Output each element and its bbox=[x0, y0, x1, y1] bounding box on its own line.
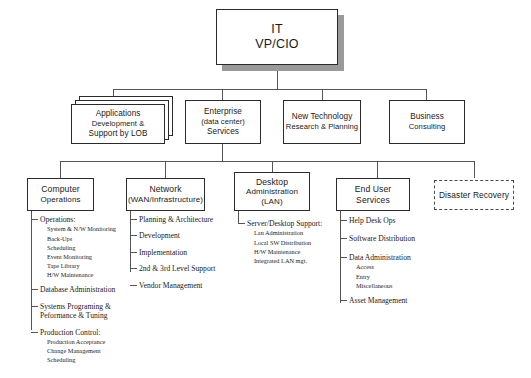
list-item[interactable]: Vendor Management bbox=[139, 281, 231, 290]
list-item[interactable]: Systems Programing & Peformance & Tuning bbox=[40, 302, 126, 321]
box-end-user-services[interactable]: End User Services bbox=[336, 178, 410, 211]
tick-mark-icon bbox=[340, 257, 347, 258]
tick-mark-icon bbox=[130, 252, 137, 253]
leaf-item: Access bbox=[356, 262, 441, 271]
list-item[interactable]: Production Control: Production Acceptanc… bbox=[40, 328, 126, 365]
list-item[interactable]: Planning & Architecture bbox=[139, 215, 231, 224]
tick-mark-icon bbox=[130, 219, 137, 220]
box-enterprise-line3: Services bbox=[207, 127, 239, 137]
connector-tier2-drop-1 bbox=[113, 89, 114, 96]
list-item-label: Systems Programing & Peformance & Tuning bbox=[40, 302, 120, 321]
box-it-vp-cio-line2: VP/CIO bbox=[255, 37, 299, 52]
list-item-label: Data Administration bbox=[349, 253, 441, 262]
box-applications-line2: Development & bbox=[92, 119, 145, 128]
tick-mark-icon bbox=[31, 289, 38, 290]
list-item-label: Database Administration bbox=[40, 285, 126, 294]
list-item[interactable]: Server/Desktop Support: Lan Administrati… bbox=[247, 219, 335, 265]
spine-computer-operations bbox=[31, 211, 32, 330]
list-item[interactable]: Software Distribution bbox=[349, 234, 441, 243]
list-item[interactable]: Data Administration Access Entry Miscell… bbox=[349, 253, 441, 290]
tick-mark-icon bbox=[31, 306, 38, 307]
connector-tier2-drop-2 bbox=[222, 89, 223, 100]
box-disaster-recovery[interactable]: Disaster Recovery bbox=[434, 180, 514, 210]
leaf-item: Production Acceptance bbox=[47, 337, 126, 346]
box-network-line2: (WAN/Infrastructure) bbox=[128, 195, 203, 205]
box-business-consulting-line1: Business bbox=[410, 112, 444, 122]
tick-mark-icon bbox=[130, 235, 137, 236]
leaf-item: Lan Administration bbox=[254, 228, 335, 237]
tick-mark-icon bbox=[340, 220, 347, 221]
box-computer-operations-line1: Computer bbox=[41, 184, 80, 194]
list-item[interactable]: Operations: System & N/W Monitoring Back… bbox=[40, 215, 126, 279]
list-item[interactable]: Help Desk Ops bbox=[349, 216, 441, 225]
leaf-item: System & N/W Monitoring bbox=[47, 224, 126, 233]
box-computer-operations[interactable]: Computer Operations bbox=[27, 178, 94, 211]
sublist-computer-operations: Operations: System & N/W Monitoring Back… bbox=[40, 215, 126, 369]
box-applications-line3: Support by LOB bbox=[89, 129, 148, 139]
list-item[interactable]: 2nd & 3rd Level Support bbox=[139, 264, 231, 273]
list-item-label: Production Control: bbox=[40, 328, 126, 337]
list-item-label: Operations: bbox=[40, 215, 126, 224]
connector-tier3-drop-1 bbox=[60, 161, 61, 178]
connector-enterprise-stem bbox=[222, 144, 223, 161]
box-desktop-administration-line2: Administration bbox=[246, 187, 298, 197]
spine-network bbox=[130, 211, 131, 272]
tick-mark-icon bbox=[130, 268, 137, 269]
box-desktop-administration-line1: Desktop bbox=[256, 177, 288, 187]
list-item-label: Server/Desktop Support: bbox=[247, 219, 335, 228]
box-applications-line1: Applications bbox=[96, 109, 141, 119]
connector-tier3-drop-5 bbox=[474, 161, 475, 178]
list-item[interactable]: Implementation bbox=[139, 248, 231, 257]
list-item[interactable]: Development bbox=[139, 231, 231, 240]
list-item[interactable]: Database Administration bbox=[40, 285, 126, 294]
leaf-item: Scheduling bbox=[47, 355, 126, 364]
box-network-line1: Network bbox=[149, 184, 181, 194]
list-item[interactable]: Asset Management bbox=[349, 296, 441, 305]
list-item-label: Implementation bbox=[139, 248, 231, 257]
box-enterprise-line2: (data center) bbox=[201, 117, 245, 126]
leaf-group: Access Entry Miscellaneous bbox=[349, 262, 441, 289]
list-item-label: Help Desk Ops bbox=[349, 216, 441, 225]
list-item-label: Software Distribution bbox=[349, 234, 441, 243]
box-network[interactable]: Network (WAN/Infrastructure) bbox=[126, 178, 205, 211]
leaf-item: Back-Ups bbox=[47, 234, 126, 243]
box-desktop-administration-line3: (LAN) bbox=[261, 197, 282, 207]
box-business-consulting[interactable]: Business Consulting bbox=[389, 100, 465, 144]
box-it-vp-cio[interactable]: IT VP/CIO bbox=[216, 9, 338, 65]
leaf-item: Change Management bbox=[47, 346, 126, 355]
list-item-label: Vendor Management bbox=[139, 281, 231, 290]
connector-tier2-bus bbox=[113, 89, 426, 90]
tick-mark-icon bbox=[238, 223, 245, 224]
box-computer-operations-line2: Operations bbox=[40, 195, 80, 205]
list-item-label: Asset Management bbox=[349, 296, 441, 305]
leaf-item: H/W Maintenance bbox=[254, 247, 335, 256]
connector-tier2-drop-4 bbox=[426, 89, 427, 100]
box-end-user-services-line1: End User Services bbox=[337, 184, 409, 205]
leaf-item: Integrated LAN mgt. bbox=[254, 256, 335, 265]
list-item-label: 2nd & 3rd Level Support bbox=[139, 264, 231, 273]
tick-mark-icon bbox=[31, 332, 38, 333]
leaf-group: Production Acceptance Change Management … bbox=[40, 337, 126, 364]
leaf-item: Miscellaneous bbox=[356, 281, 441, 290]
leaf-item: Scheduling bbox=[47, 243, 126, 252]
leaf-item: Local SW Distribution bbox=[254, 238, 335, 247]
tick-mark-icon bbox=[130, 285, 137, 286]
box-desktop-administration[interactable]: Desktop Administration (LAN) bbox=[234, 172, 310, 211]
sublist-end-user-services: Help Desk Ops Software Distribution Data… bbox=[349, 216, 441, 309]
connector-tier3-bus bbox=[60, 161, 474, 162]
leaf-item: H/W Maintenance bbox=[47, 270, 126, 279]
sublist-network: Planning & Architecture Development Impl… bbox=[139, 215, 231, 294]
connector-tier3-drop-2 bbox=[165, 161, 166, 178]
box-disaster-recovery-line1: Disaster Recovery bbox=[439, 190, 509, 200]
leaf-item: Event Monitoring bbox=[47, 252, 126, 261]
box-applications-development-support[interactable]: Applications Development & Support by LO… bbox=[71, 104, 165, 144]
list-item-label: Planning & Architecture bbox=[139, 215, 231, 224]
org-chart-canvas: IT VP/CIO Applications Development & Sup… bbox=[0, 0, 531, 378]
leaf-group: System & N/W Monitoring Back-Ups Schedul… bbox=[40, 224, 126, 279]
tick-mark-icon bbox=[340, 238, 347, 239]
tick-mark-icon bbox=[340, 300, 347, 301]
box-new-technology-research-planning[interactable]: New Technology Research & Planning bbox=[283, 100, 361, 144]
list-item-label: Development bbox=[139, 231, 231, 240]
box-new-technology-line2: Research & Planning bbox=[286, 122, 358, 131]
box-enterprise-data-center-services[interactable]: Enterprise (data center) Services bbox=[185, 100, 261, 144]
